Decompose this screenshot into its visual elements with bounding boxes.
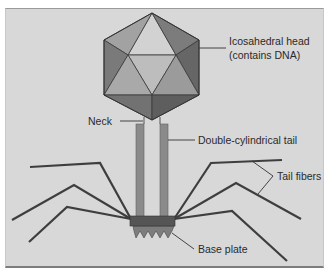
label-tail-fibers: Tail fibers	[277, 170, 321, 182]
label-base-plate: Base plate	[198, 243, 248, 255]
label-head-sub: (contains DNA)	[229, 49, 300, 61]
double-cylindrical-tail	[136, 124, 168, 218]
label-head: Icosahedral head	[229, 35, 310, 47]
bacteriophage-diagram: Icosahedral head (contains DNA) Neck Dou…	[0, 0, 333, 276]
label-neck: Neck	[88, 115, 113, 127]
label-tail: Double-cylindrical tail	[198, 134, 297, 146]
tail-fibers	[12, 160, 301, 261]
icosahedral-head	[104, 13, 199, 120]
base-plate	[130, 216, 175, 238]
